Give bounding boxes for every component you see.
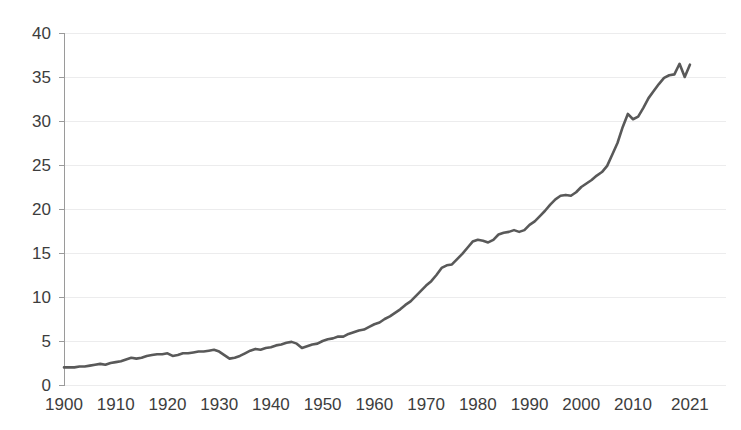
y-tick-label-0: 0 [42,376,51,395]
chart-background [0,0,741,430]
x-tick-label-1960: 1960 [355,395,393,414]
y-tick-label-25: 25 [32,156,51,175]
y-tick-label-20: 20 [32,200,51,219]
x-tick-label-2000: 2000 [562,395,600,414]
x-tick-label-1900: 1900 [45,395,83,414]
x-tick-label-1910: 1910 [97,395,135,414]
chart-container: 0510152025303540 19001910192019301940195… [0,0,741,430]
x-tick-label-1940: 1940 [252,395,290,414]
x-tick-label-1990: 1990 [511,395,549,414]
x-tick-label-1970: 1970 [407,395,445,414]
x-tick-label-1950: 1950 [304,395,342,414]
x-tick-label-1980: 1980 [459,395,497,414]
y-tick-label-30: 30 [32,112,51,131]
x-tick-label-1920: 1920 [149,395,187,414]
y-tick-label-15: 15 [32,244,51,263]
y-tick-label-5: 5 [42,332,51,351]
chart-svg: 0510152025303540 19001910192019301940195… [0,0,741,430]
y-tick-label-35: 35 [32,68,51,87]
y-tick-label-10: 10 [32,288,51,307]
x-tick-label-1930: 1930 [200,395,238,414]
x-tick-label-2010: 2010 [614,395,652,414]
x-tick-label-2021: 2021 [671,395,709,414]
y-tick-label-40: 40 [32,24,51,43]
